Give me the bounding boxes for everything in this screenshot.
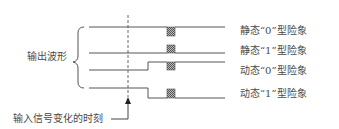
input-change-leader	[111, 104, 128, 119]
waveform-dynamic-1	[89, 88, 225, 98]
row-label-static-0: 静态“0”型险象	[240, 25, 307, 37]
waveform-static-1	[89, 45, 225, 53]
row-label-dynamic-0: 动态“0”型险象	[240, 65, 307, 77]
waveform-static-0	[89, 27, 225, 36]
waveform-dynamic-0	[89, 62, 225, 70]
input-change-label: 输入信号变化的时刻	[13, 113, 103, 125]
arrow-up-icon	[125, 97, 131, 104]
brace	[73, 27, 84, 88]
row-label-static-1: 静态“1”型险象	[240, 45, 307, 57]
row-label-dynamic-1: 动态“1”型险象	[240, 88, 307, 100]
output-waveform-label: 输出波形	[27, 51, 67, 63]
